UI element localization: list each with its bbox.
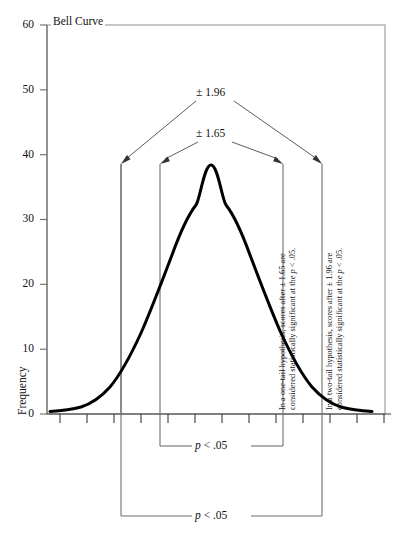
ytick-label-40: 40 [4,148,34,160]
z-inner-label: ± 1.65 [194,127,227,139]
y-tick-marks [40,25,47,414]
ytick-label-60: 60 [4,18,34,30]
ytick-label-30: 30 [4,212,34,224]
two-tail-note-line1: In a two-tail hypothesis, scores after ±… [325,253,335,410]
y-axis-title: Frequency [16,366,28,415]
two-tail-note-line1-text: In a two-tail hypothesis, scores after ±… [325,253,334,410]
ytick-label-10: 10 [4,342,34,354]
one-tail-note-line1-text: In a one-tail hypothesis, scores after ±… [278,253,287,410]
two-tail-note-line2-text-a: considered statistically significant at … [335,273,344,410]
one-tail-note-line2-text-a: considered statistically significant at … [288,273,297,410]
p-inner-label-rest: < .05 [201,439,228,451]
p-outer-label-rest: < .05 [201,509,228,521]
chart-title: Bell Curve [51,15,105,27]
x-tick-marks [60,414,384,423]
ytick-label-50: 50 [4,83,34,95]
one-tail-note-line1: In a one-tail hypothesis, scores after ±… [278,253,288,410]
two-tail-note-line2-text-c: < .05. [335,248,344,269]
p-outer-label: p < .05 [192,509,230,521]
chart-canvas: 60 50 40 30 20 10 0 Frequency Bell Curve… [0,0,401,547]
two-tail-note-line2-text-b: p [335,269,344,273]
one-tail-note-line2-text-b: p [288,269,297,273]
z-outer-label: ± 1.96 [194,86,227,98]
one-tail-note-line2: considered statistically significant at … [288,248,298,410]
two-tail-note-line2: considered statistically significant at … [335,248,345,410]
one-tail-note-line2-text-c: < .05. [288,248,297,269]
p-inner-label: p < .05 [192,439,230,451]
ytick-label-20: 20 [4,277,34,289]
bell-curve-path [50,165,372,411]
arrows-z-inner [165,142,278,159]
